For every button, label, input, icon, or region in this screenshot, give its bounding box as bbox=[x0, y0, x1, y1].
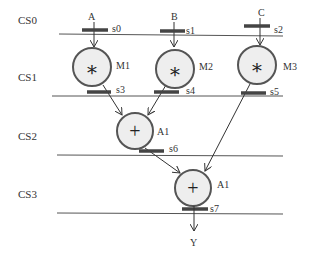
edge-m2-a1 bbox=[148, 85, 166, 115]
multiply-icon: ∗ bbox=[250, 56, 264, 78]
multiply-icon: ∗ bbox=[85, 58, 99, 80]
input-label-b: B bbox=[171, 11, 178, 22]
output-label-y: Y bbox=[190, 237, 197, 248]
control-step-boundary-3 bbox=[57, 213, 283, 214]
control-step-label-cs2: CS2 bbox=[18, 130, 37, 142]
control-step-boundary-0 bbox=[59, 34, 283, 36]
register-label-s0: s0 bbox=[112, 23, 121, 34]
edge-m3-a1b bbox=[205, 84, 250, 171]
register-label-s4: s4 bbox=[186, 85, 195, 96]
node-label-a1-cs2: A1 bbox=[157, 126, 169, 137]
control-step-boundary-2 bbox=[57, 155, 283, 156]
register-label-s1: s1 bbox=[186, 25, 195, 36]
input-label-c: C bbox=[258, 7, 265, 18]
register-label-s5: s5 bbox=[270, 86, 279, 97]
register-label-s2: s2 bbox=[274, 24, 283, 35]
add-icon: + bbox=[187, 177, 198, 199]
node-label-m1: M1 bbox=[116, 60, 130, 71]
node-label-m3: M3 bbox=[283, 61, 297, 72]
node-label-a1-cs3: A1 bbox=[217, 179, 229, 190]
multiply-icon: ∗ bbox=[168, 60, 182, 82]
register-label-s7: s7 bbox=[210, 203, 219, 214]
control-step-label-cs0: CS0 bbox=[18, 14, 37, 26]
add-icon: + bbox=[129, 120, 140, 142]
node-label-m2: M2 bbox=[199, 61, 213, 72]
input-label-a: A bbox=[88, 11, 96, 22]
control-step-label-cs1: CS1 bbox=[18, 71, 37, 83]
register-label-s6: s6 bbox=[169, 143, 178, 154]
register-label-s3: s3 bbox=[116, 84, 125, 95]
control-step-label-cs3: CS3 bbox=[18, 188, 37, 200]
dataflow-diagram: CS0 CS1 CS2 CS3 A B C s0 s1 s2 ∗ M1 ∗ M2… bbox=[0, 0, 311, 255]
